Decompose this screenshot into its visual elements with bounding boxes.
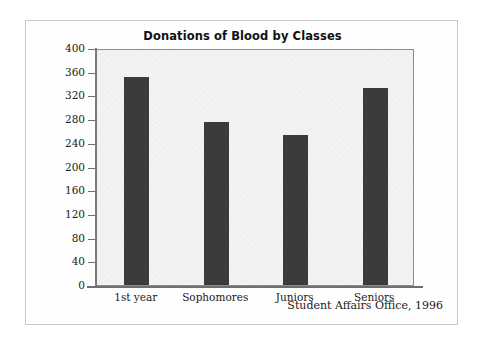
bar (283, 135, 308, 285)
y-axis-line (95, 48, 97, 287)
y-tick-label: 0 (78, 279, 85, 291)
y-tick-mark (88, 49, 95, 50)
y-tick-mark (88, 239, 95, 240)
y-tick-mark (88, 96, 95, 97)
figure-frame: Donations of Blood by Classes 0408012016… (25, 20, 458, 325)
y-tick-label: 80 (72, 232, 85, 244)
y-tick-mark (88, 262, 95, 263)
y-tick-label: 40 (72, 255, 85, 267)
y-tick-mark (88, 168, 95, 169)
y-tick-label: 320 (65, 89, 85, 101)
scanned-page: Donations of Blood by Classes 0408012016… (0, 0, 483, 344)
chart-title: Donations of Blood by Classes (26, 29, 459, 43)
y-tick-mark (88, 215, 95, 216)
source-note: Student Affairs Office, 1996 (287, 299, 443, 312)
y-tick-label: 280 (65, 113, 85, 125)
y-tick-mark (88, 191, 95, 192)
y-tick-label: 120 (65, 208, 85, 220)
y-tick-mark (88, 120, 95, 121)
bar (204, 122, 229, 285)
bar (124, 77, 149, 285)
plot-area (96, 49, 414, 286)
y-tick-label: 160 (65, 184, 85, 196)
bar (363, 88, 388, 285)
y-tick-label: 200 (65, 161, 85, 173)
y-tick-mark (88, 286, 95, 287)
y-tick-label: 360 (65, 66, 85, 78)
x-axis-line (87, 286, 423, 288)
y-tick-label: 240 (65, 137, 85, 149)
y-tick-label: 400 (65, 42, 85, 54)
y-tick-mark (88, 144, 95, 145)
y-tick-mark (88, 73, 95, 74)
